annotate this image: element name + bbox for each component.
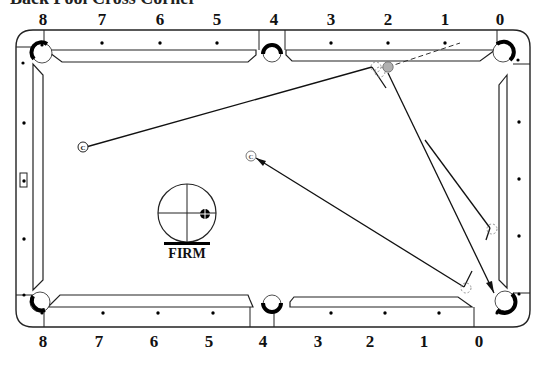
cue-tip-diagram bbox=[158, 184, 216, 245]
ghost-ball-bottom bbox=[461, 283, 471, 293]
svg-text:C: C bbox=[80, 144, 85, 152]
cushions bbox=[33, 50, 507, 307]
pocket-top-right bbox=[493, 41, 520, 62]
cue-ball-start: C bbox=[78, 142, 88, 152]
pocket-bottom-right bbox=[495, 291, 521, 315]
pool-diagram: Back Pool Cross Corner 8 7 6 5 4 3 2 1 0… bbox=[0, 0, 548, 366]
diamonds bbox=[22, 41, 520, 314]
aim-line-dashed bbox=[388, 43, 460, 67]
stroke-label: FIRM bbox=[164, 246, 210, 262]
cue-ball-end: C bbox=[246, 151, 256, 161]
arrowheads bbox=[256, 158, 494, 293]
shot-lines bbox=[86, 67, 494, 293]
object-ball bbox=[383, 62, 393, 72]
arrow-pocket-icon bbox=[486, 281, 494, 293]
pocket-top-middle bbox=[263, 44, 281, 62]
arrow-cue-return-icon bbox=[256, 158, 266, 166]
pockets bbox=[21, 41, 520, 314]
pocket-bottom-middle bbox=[263, 295, 281, 313]
svg-text:C: C bbox=[248, 153, 253, 161]
pocket-top-left bbox=[21, 42, 52, 64]
ghost-balls bbox=[371, 62, 497, 293]
table-drawing: C C bbox=[0, 0, 548, 366]
